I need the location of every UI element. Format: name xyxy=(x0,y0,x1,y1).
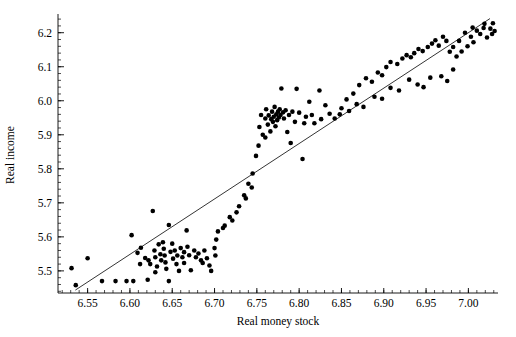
data-point xyxy=(372,94,377,99)
data-point xyxy=(139,245,144,250)
data-point xyxy=(234,210,239,215)
data-point xyxy=(485,35,490,40)
data-point xyxy=(332,116,337,121)
data-point xyxy=(370,79,375,84)
data-point xyxy=(425,45,430,50)
data-point xyxy=(444,39,449,44)
data-point xyxy=(192,248,197,253)
data-point xyxy=(407,77,412,82)
data-point xyxy=(290,109,295,114)
data-point xyxy=(205,256,210,261)
data-point xyxy=(182,261,187,266)
data-point xyxy=(351,91,356,96)
data-point xyxy=(409,55,414,60)
y-tick-label: 6.1 xyxy=(38,61,53,73)
data-point xyxy=(364,76,369,81)
data-point xyxy=(131,279,136,284)
data-point xyxy=(216,229,221,234)
data-point xyxy=(250,171,255,176)
data-point xyxy=(384,65,389,70)
data-point xyxy=(164,267,169,272)
data-point xyxy=(207,263,212,268)
data-point xyxy=(475,28,480,33)
data-point xyxy=(282,116,287,121)
data-point xyxy=(293,120,298,125)
data-point xyxy=(152,248,157,253)
data-point xyxy=(288,141,293,146)
data-point xyxy=(213,253,218,258)
data-point xyxy=(457,39,462,44)
data-point xyxy=(227,215,232,220)
data-point xyxy=(297,110,302,115)
data-point xyxy=(155,264,160,269)
data-point xyxy=(451,45,456,50)
data-point xyxy=(380,96,385,101)
data-point xyxy=(209,269,214,274)
x-axis-title: Real money stock xyxy=(237,315,320,328)
data-point xyxy=(397,88,402,93)
data-point xyxy=(416,47,421,52)
data-point xyxy=(200,261,205,266)
data-point xyxy=(294,87,299,92)
data-point xyxy=(161,246,166,251)
data-point xyxy=(317,88,322,93)
x-tick-label: 6.75 xyxy=(247,297,267,309)
y-tick-label: 6.2 xyxy=(38,27,53,39)
x-tick-label: 6.70 xyxy=(204,297,224,309)
data-point xyxy=(129,233,134,238)
x-tick-label: 6.60 xyxy=(120,297,140,309)
data-point xyxy=(310,113,315,118)
data-point xyxy=(388,60,393,65)
data-point xyxy=(257,125,262,130)
data-point xyxy=(445,79,450,84)
x-tick-label: 6.85 xyxy=(331,297,351,309)
x-tick-label: 6.95 xyxy=(416,297,436,309)
data-point xyxy=(175,253,180,258)
data-point xyxy=(182,250,187,255)
data-point xyxy=(143,256,148,261)
data-point xyxy=(69,266,74,271)
data-point xyxy=(404,53,409,58)
data-point xyxy=(469,34,474,39)
data-point xyxy=(237,204,242,209)
data-point xyxy=(153,270,158,275)
data-point xyxy=(312,121,317,126)
data-point xyxy=(174,262,179,267)
data-point xyxy=(266,122,271,127)
x-tick-label: 7.00 xyxy=(458,297,478,309)
data-point xyxy=(185,244,190,249)
data-point xyxy=(170,241,175,246)
data-point xyxy=(273,124,278,129)
data-point xyxy=(459,49,464,54)
y-tick-label: 5.8 xyxy=(38,163,53,175)
x-tick-label: 6.65 xyxy=(162,297,182,309)
data-point xyxy=(354,102,359,107)
data-point xyxy=(124,279,129,284)
data-point xyxy=(161,240,166,245)
y-tick-label: 5.6 xyxy=(38,231,53,243)
data-point xyxy=(184,228,189,233)
data-point xyxy=(471,40,476,45)
data-point xyxy=(465,44,470,49)
data-point xyxy=(436,43,441,48)
data-point xyxy=(441,34,446,39)
data-point xyxy=(246,181,251,186)
data-point xyxy=(196,251,201,256)
data-point xyxy=(376,70,381,75)
data-point xyxy=(454,54,459,59)
data-point xyxy=(283,108,288,113)
x-tick-label: 6.55 xyxy=(78,297,98,309)
data-point xyxy=(256,143,261,148)
data-point xyxy=(264,107,269,112)
y-tick-label: 5.9 xyxy=(38,129,53,141)
data-point xyxy=(113,279,118,284)
data-point xyxy=(451,67,456,72)
data-point xyxy=(148,262,153,267)
data-point xyxy=(254,154,259,159)
data-point xyxy=(167,223,172,228)
data-point xyxy=(490,32,495,37)
plot-canvas: 6.556.606.656.706.756.806.856.906.957.00… xyxy=(0,0,516,337)
data-point xyxy=(347,109,352,114)
data-point xyxy=(421,85,426,90)
data-point xyxy=(428,75,433,80)
